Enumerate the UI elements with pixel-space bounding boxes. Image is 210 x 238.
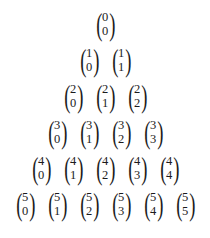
triangle-row: (10)(11) xyxy=(0,42,210,78)
binomial-coefficient: (33) xyxy=(143,116,163,148)
binomial-coefficient: (20) xyxy=(63,80,83,112)
left-paren-icon: ( xyxy=(176,188,180,220)
triangle-row: (30)(31)(32)(33) xyxy=(0,114,210,150)
binomial-coefficient: (31) xyxy=(79,116,99,148)
left-paren-icon: ( xyxy=(16,188,20,220)
binomial-coefficient: (53) xyxy=(111,188,131,220)
right-paren-icon: ) xyxy=(173,152,177,184)
left-paren-icon: ( xyxy=(80,188,84,220)
triangle-row: (00) xyxy=(0,6,210,42)
left-paren-icon: ( xyxy=(160,152,164,184)
binomial-coefficient: (11) xyxy=(111,44,131,76)
left-paren-icon: ( xyxy=(80,44,84,76)
left-paren-icon: ( xyxy=(112,116,116,148)
left-paren-icon: ( xyxy=(112,188,116,220)
left-paren-icon: ( xyxy=(48,188,52,220)
binomial-coefficient: (10) xyxy=(79,44,99,76)
binomial-coefficient: (50) xyxy=(15,188,35,220)
right-paren-icon: ) xyxy=(77,80,81,112)
binomial-coefficient: (55) xyxy=(175,188,195,220)
left-paren-icon: ( xyxy=(64,152,68,184)
binomial-coefficient: (52) xyxy=(79,188,99,220)
binomial-coefficient: (32) xyxy=(111,116,131,148)
right-paren-icon: ) xyxy=(141,80,145,112)
left-paren-icon: ( xyxy=(96,8,100,40)
left-paren-icon: ( xyxy=(128,80,132,112)
right-paren-icon: ) xyxy=(109,80,113,112)
left-paren-icon: ( xyxy=(80,116,84,148)
binomial-coefficient: (21) xyxy=(95,80,115,112)
binomial-coefficient: (44) xyxy=(159,152,179,184)
right-paren-icon: ) xyxy=(125,44,129,76)
pascals-triangle: (00)(10)(11)(20)(21)(22)(30)(31)(32)(33)… xyxy=(0,0,210,238)
left-paren-icon: ( xyxy=(96,80,100,112)
right-paren-icon: ) xyxy=(29,188,33,220)
right-paren-icon: ) xyxy=(125,188,129,220)
binomial-coefficient: (30) xyxy=(47,116,67,148)
right-paren-icon: ) xyxy=(61,188,65,220)
binomial-coefficient: (40) xyxy=(31,152,51,184)
left-paren-icon: ( xyxy=(144,188,148,220)
right-paren-icon: ) xyxy=(189,188,193,220)
binomial-coefficient: (54) xyxy=(143,188,163,220)
left-paren-icon: ( xyxy=(96,152,100,184)
right-paren-icon: ) xyxy=(109,8,113,40)
left-paren-icon: ( xyxy=(48,116,52,148)
binomial-coefficient: (00) xyxy=(95,8,115,40)
right-paren-icon: ) xyxy=(125,116,129,148)
triangle-row: (50)(51)(52)(53)(54)(55) xyxy=(0,186,210,222)
triangle-row: (40)(41)(42)(43)(44) xyxy=(0,150,210,186)
right-paren-icon: ) xyxy=(77,152,81,184)
binomial-coefficient: (41) xyxy=(63,152,83,184)
binomial-coefficient: (22) xyxy=(127,80,147,112)
right-paren-icon: ) xyxy=(93,188,97,220)
triangle-row: (20)(21)(22) xyxy=(0,78,210,114)
right-paren-icon: ) xyxy=(157,188,161,220)
binomial-coefficient: (43) xyxy=(127,152,147,184)
binomial-coefficient: (51) xyxy=(47,188,67,220)
left-paren-icon: ( xyxy=(144,116,148,148)
left-paren-icon: ( xyxy=(128,152,132,184)
right-paren-icon: ) xyxy=(109,152,113,184)
right-paren-icon: ) xyxy=(45,152,49,184)
binomial-coefficient: (42) xyxy=(95,152,115,184)
right-paren-icon: ) xyxy=(93,44,97,76)
left-paren-icon: ( xyxy=(112,44,116,76)
right-paren-icon: ) xyxy=(141,152,145,184)
right-paren-icon: ) xyxy=(93,116,97,148)
right-paren-icon: ) xyxy=(61,116,65,148)
left-paren-icon: ( xyxy=(32,152,36,184)
left-paren-icon: ( xyxy=(64,80,68,112)
right-paren-icon: ) xyxy=(157,116,161,148)
